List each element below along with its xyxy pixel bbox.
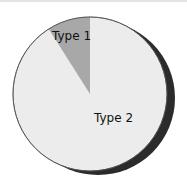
label-type-2: Type 2 xyxy=(93,111,133,125)
pie-chart: Type 1 Type 2 xyxy=(0,0,187,190)
label-type-1: Type 1 xyxy=(51,29,91,43)
